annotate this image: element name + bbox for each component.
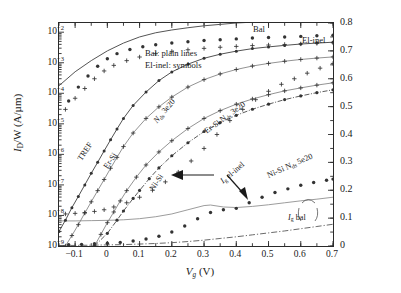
right-tick-label: 0.4 bbox=[340, 129, 353, 139]
y-tick-label: 10−7 bbox=[47, 178, 64, 190]
right-tick-label: 0.7 bbox=[340, 45, 353, 55]
x-axis-unit: (V) bbox=[196, 265, 214, 277]
annotation-ig-bal: Ig bal bbox=[288, 214, 306, 223]
right-tick-label: 0.8 bbox=[340, 17, 353, 27]
x-tick-label: 0.2 bbox=[165, 250, 177, 260]
annotation-bal: Bal bbox=[253, 25, 265, 34]
x-tick-label: −0.1 bbox=[65, 250, 82, 260]
y-axis-unit: /W (A/µm) bbox=[11, 94, 23, 143]
y-tick-label: 10−6 bbox=[47, 148, 64, 160]
x-tick-label: 0.3 bbox=[197, 250, 209, 260]
right-tick-label: 0 bbox=[340, 240, 345, 250]
x-tick-label: 0.5 bbox=[262, 250, 274, 260]
x-tick-label: 0.1 bbox=[133, 250, 145, 260]
right-tick-label: 0.5 bbox=[340, 101, 353, 111]
chart-figure: Bal: plain lines El-inel: symbols 10−210… bbox=[0, 0, 401, 293]
x-tick-label: 0.6 bbox=[294, 250, 306, 260]
y-axis-title: ID/W (A/µm) bbox=[11, 63, 25, 183]
right-tick-label: 0.6 bbox=[340, 73, 353, 83]
y-tick-label: 10−9 bbox=[47, 239, 64, 251]
legend-line-2: El-inel: symbols bbox=[145, 59, 202, 71]
x-axis-symbol: V bbox=[186, 265, 193, 277]
x-tick-label: 0 bbox=[104, 250, 109, 260]
y-axis-symbol: I bbox=[11, 148, 23, 152]
x-axis-title: Vg (V) bbox=[140, 265, 260, 279]
right-tick-label: 0.1 bbox=[340, 212, 353, 222]
annotation-igbal-txt: bal bbox=[294, 213, 306, 222]
y-tick-label: 10−8 bbox=[47, 209, 64, 221]
legend-line-1: Bal: plain lines bbox=[145, 47, 202, 59]
legend: Bal: plain lines El-inel: symbols bbox=[145, 47, 202, 72]
y-tick-label: 10−4 bbox=[47, 86, 64, 98]
y-tick-label: 10−3 bbox=[47, 56, 64, 68]
right-tick-label: 0.2 bbox=[340, 184, 353, 194]
x-tick-label: 0.4 bbox=[229, 250, 241, 260]
y-axis-subscript: D bbox=[17, 143, 25, 148]
y-tick-label: 10−5 bbox=[47, 117, 64, 129]
annotation-bal-text: Bal bbox=[253, 24, 265, 34]
x-tick-label: 0.7 bbox=[326, 250, 338, 260]
annotation-el-inel: El-inel bbox=[302, 36, 325, 45]
annotation-el-inel-text: El-inel bbox=[302, 35, 325, 45]
right-tick-label: 0.3 bbox=[340, 156, 353, 166]
y-tick-label: 10−2 bbox=[47, 25, 64, 37]
